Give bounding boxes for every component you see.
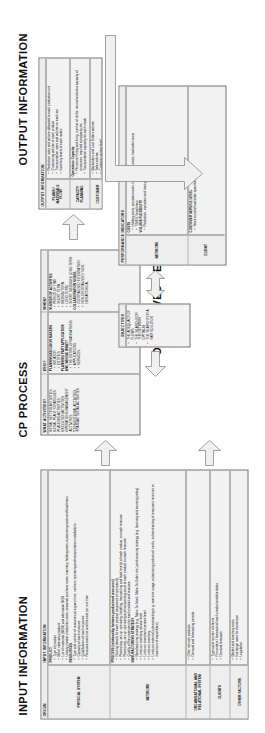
list-item: TRANSACTIONAL ACTIVITIES (76, 376, 80, 431)
list-item: THE SEARCH FOR THE NETWORK OPTIMUM (135, 306, 146, 343)
arrow-cp-to-output (60, 213, 86, 239)
objectives-list: THE ADEQUACY OF FLOWS THE SEARCH FOR THE… (126, 304, 155, 346)
input-origin-label: ORIGIN (42, 662, 46, 716)
bullet-list: Type and number of resources at a given … (73, 472, 89, 659)
row-label-clients: CLIENTS (210, 664, 229, 718)
table-row: CLIENTS Types and number of clients Firm… (210, 470, 230, 718)
list-item: SERVICES (77, 314, 81, 367)
bullet-list: Routing details for each product (sequen… (115, 472, 131, 659)
cp-column-header-what: WHAT ACTIVITIES? (41, 374, 48, 434)
diagram-canvas: INPUT INFORMATION CP PROCESS OBJECTIVES … (0, 0, 265, 733)
table-row: NETWORK PROCESS (relationship between pr… (110, 470, 186, 718)
row-cell-physical-system: PRODUCT Type of product Bill of material… (48, 470, 109, 664)
bullet-list: PERIOD OF TIME SHORT TERM MEDIUM TERM LO… (53, 252, 73, 306)
rotated-diagram-canvas: INPUT INFORMATION CP PROCESS OBJECTIVES … (0, 0, 265, 733)
row-label-plans-materials-flow: PLANS / MATERIALS FLOW (46, 178, 69, 208)
row-cell-other-factors: Market and inventory costs Exchange rate… (230, 470, 248, 664)
figure-page: INPUT INFORMATION CP PROCESS OBJECTIVES … (0, 0, 265, 733)
row-label-physical-system: PHYSICAL SYSTEM (48, 664, 109, 718)
objectives-header: OBJECTIVES (119, 304, 126, 346)
input-header-label: INPUT INFORMATION (42, 624, 46, 662)
row-label-capacity-planning: CAPACITY PLANNING (70, 178, 89, 208)
row-label-organisational-system: ORGANISATIONAL AND RELATIONAL SYSTEM (186, 664, 209, 718)
bullet-list: THE ADEQUACY OF FLOWS THE SEARCH FOR THE… (127, 306, 154, 343)
row-label-network: NETWORK (110, 664, 185, 718)
list-item: Exchange rates for conversion (235, 472, 239, 659)
group-subtitle: PRODUCT (49, 472, 53, 662)
row-cell-capacity-planning: Operations Capacity Personnel hiring and… (70, 58, 89, 178)
bullet-list: Other network products Demand and foreca… (187, 472, 195, 659)
bullet-list: INITIAL SETTING ACTIVITIES INITIAL PLANT… (49, 376, 80, 431)
list-item: Limits on external subcontracting (e.g. … (151, 472, 159, 659)
bullet-list: Types and number of clients Firm orders … (211, 472, 223, 659)
row-cell-plans-materials-flow: Production rates and volume allocated to… (46, 58, 69, 178)
table-row: PLANS / MATERIALS FLOW Production rates … (46, 58, 70, 208)
row-cell-customer: Backorders and Lost Orders volume Sales … (90, 58, 102, 178)
list-item: THE SEARCH FOR A FAIR SOLUTION (146, 306, 154, 343)
bullet-list: Personnel hiring and firing, number of s… (75, 60, 86, 173)
cp-column-who: PLANNING/DECISION MAKERS INITIATOR ENTIT… (48, 312, 82, 372)
list-item: SHORT, MEDIUM & LONG TERM (69, 252, 73, 306)
row-label-customer: CUSTOMER (90, 178, 102, 208)
table-row: CUSTOMER Backorders and Lost Orders volu… (90, 58, 102, 208)
arrow-input-to-cp (92, 439, 118, 465)
cp-column-header-who: WHO? (41, 312, 48, 372)
objectives-box: OBJECTIVES THE ADEQUACY OF FLOWS THE SEA… (118, 303, 190, 347)
table-row: OTHER FACTORS Market and inventory costs… (230, 470, 248, 718)
row-cell-network: PROCESS (relationship between product an… (110, 470, 185, 664)
arrow-objectives-to-cp (143, 351, 167, 377)
cp-column-header-when: WHEN? (41, 250, 48, 311)
bullet-list: Type of product Bill of materials produc… (53, 472, 69, 659)
cp-process-title: CP PROCESS (16, 361, 28, 437)
bullet-list: Production rates and volume allocated to… (47, 60, 63, 173)
table-row: PHYSICAL SYSTEM PRODUCT Type of product … (48, 470, 110, 718)
arrow-input-to-performance (196, 439, 222, 465)
bullet-list: INITIATOR ENTITIES (53, 314, 61, 367)
list-item: Inventory levels of each nodes (59, 60, 63, 173)
list-item: Resource overtime and the cost per unit … (85, 472, 89, 659)
list-item: Unitary product production costs, season… (65, 472, 69, 659)
list-item: Personnel hiring and firing, number of s… (75, 60, 83, 173)
arrow-objectives-performance-bidirectional (143, 269, 167, 299)
bullet-list: THE ENTIRE ORGANISATIONS APPLICATIONS SE… (69, 314, 81, 367)
list-item: ENTITIES (57, 314, 61, 367)
input-table-header: ORIGIN INPUT INFORMATION (41, 470, 48, 718)
output-information-table: OUTPUT INFORMATION PLANS / MATERIALS FLO… (38, 57, 102, 209)
list-item: Demand and forecasting periods (191, 472, 195, 659)
list-item: OPERATIONS MANAGEMENT ACTIVITIES (65, 376, 73, 431)
cp-column-when: NUMBER OF ACTIVITIES PERIOD OF TIME SHOR… (48, 250, 90, 311)
list-item: Legislation (239, 472, 243, 659)
input-information-table: ORIGIN INPUT INFORMATION PHYSICAL SYSTEM… (40, 469, 248, 719)
list-item: Demand forecasts (219, 472, 223, 659)
table-row: ORGANISATIONAL AND RELATIONAL SYSTEM Oth… (186, 470, 210, 718)
row-label-other-factors: OTHER FACTORS (230, 664, 248, 718)
row-cell-clients: Types and number of clients Firm orders … (210, 470, 229, 664)
arrow-output-feedback-to-performance (104, 33, 214, 213)
list-item: Customer service level (99, 60, 102, 173)
cp-column-what: INITIAL SETTING ACTIVITIES INITIAL PLANT… (48, 374, 81, 434)
row-label-client-performance: CLIENT (188, 234, 224, 264)
bullet-list: Backorders and Lost Orders volume Sales … (91, 60, 102, 173)
bullet-list: Market and inventory costs Exchange rate… (231, 472, 243, 659)
row-cell-organisational-system: Other network products Demand and foreca… (186, 470, 209, 664)
bullet-list: CENTRALISED INTEGRATION NON-CENTRALISED … (77, 252, 88, 306)
list-item: THE ADEQUACY OF FLOWS (127, 306, 135, 343)
list-item: Quality of the processes for each produc… (127, 472, 131, 659)
row-label-network-performance: NETWORK (126, 234, 187, 264)
input-information-title: INPUT INFORMATION (16, 595, 28, 715)
list-item: NON-CENTRALISED / NON-HIERARCHICAL (81, 252, 89, 306)
bullet-list: Manufacturing strategy (e.g. Make-To-Sto… (135, 472, 158, 659)
output-information-title: OUTPUT INFORMATION (16, 33, 28, 165)
list-item: Transportation capacity for each mode (83, 60, 87, 173)
table-row: CAPACITY PLANNING Operations Capacity Pe… (70, 58, 90, 208)
output-table-header: OUTPUT INFORMATION (39, 58, 46, 208)
